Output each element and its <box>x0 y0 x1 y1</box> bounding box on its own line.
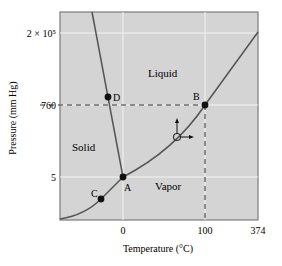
label-vapor: Vapor <box>155 180 182 192</box>
x-tick-100: 100 <box>198 225 213 236</box>
point-b-label: B <box>193 91 200 102</box>
point-c-label: C <box>91 188 98 199</box>
label-liquid: Liquid <box>148 67 178 79</box>
point-d <box>105 94 112 101</box>
point-c <box>98 196 105 203</box>
y-axis-label: Pressure (mm Hg) <box>7 81 19 154</box>
y-tick-760: 760 <box>41 100 56 111</box>
point-b <box>202 102 209 109</box>
x-axis-label: Temperature (°C) <box>123 243 193 255</box>
point-a-label: A <box>124 182 132 193</box>
point-a <box>120 174 127 181</box>
x-tick-374: 374 <box>251 225 266 236</box>
point-d-label: D <box>113 92 120 103</box>
y-tick-5: 5 <box>51 172 56 183</box>
x-tick-0: 0 <box>121 225 126 236</box>
y-tick-top: 2 × 10⁵ <box>27 28 56 39</box>
label-solid: Solid <box>72 141 96 153</box>
phase-diagram: Liquid Solid Vapor A B C D 2 × 10⁵ 760 5… <box>0 0 282 266</box>
